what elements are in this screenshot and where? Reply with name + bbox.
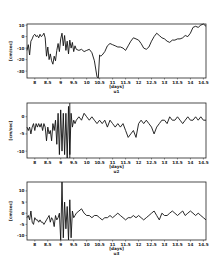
- x-tick-label: 10.5: [94, 80, 104, 85]
- x-tick-label: 9: [59, 80, 62, 85]
- x-tick-label: 10: [84, 160, 90, 165]
- x-tick-label: 8: [33, 80, 36, 85]
- y-tick-label: 0: [22, 114, 25, 119]
- y-tick-label: -30: [17, 69, 25, 74]
- data-line: [27, 182, 206, 240]
- x-tick-label: 14: [188, 80, 194, 85]
- y-tick-label: -5: [20, 222, 25, 227]
- x-tick-label: 13: [162, 80, 168, 85]
- x-tick-label: 10.5: [94, 242, 104, 247]
- x-tick-label: 10: [84, 242, 90, 247]
- x-tick-label: 9.5: [70, 160, 78, 165]
- x-tick-label: 10: [84, 80, 90, 85]
- x-tick-label: 12.5: [146, 80, 156, 85]
- plot-frame: [27, 24, 206, 78]
- panel-u3: 88.599.51010.51111.51212.51313.51414.510…: [8, 182, 209, 256]
- x-tick-label: 13.5: [172, 80, 182, 85]
- x-tick-label: 13.5: [172, 242, 182, 247]
- panel-title: u2: [114, 169, 120, 174]
- panel-u1: 88.599.51010.51111.51212.51313.51414.510…: [8, 23, 209, 94]
- plot-frame: [27, 182, 206, 240]
- figure: 88.599.51010.51111.51212.51313.51414.510…: [0, 0, 222, 266]
- x-tick-label: 12.5: [146, 242, 156, 247]
- x-tick-label: 9: [59, 160, 62, 165]
- x-tick-label: 13: [162, 160, 168, 165]
- x-tick-label: 14.5: [198, 160, 208, 165]
- y-tick-label: -10: [17, 149, 25, 154]
- x-tick-label: 13: [162, 242, 168, 247]
- panel-title: u1: [114, 89, 120, 94]
- x-tick-label: 12: [136, 242, 142, 247]
- panel-u2: 88.599.51010.51111.51212.51313.51414.50-…: [8, 103, 209, 174]
- y-tick-label: 5: [22, 200, 25, 205]
- y-tick-label: -20: [17, 57, 25, 62]
- x-tick-label: 9.5: [70, 80, 78, 85]
- panel-title: u3: [114, 251, 120, 256]
- x-tick-label: 8.5: [44, 242, 52, 247]
- x-tick-label: 14: [188, 242, 194, 247]
- x-tick-label: 8.5: [44, 80, 52, 85]
- y-axis-label: [cm/sec]: [8, 41, 13, 61]
- x-tick-label: 8: [33, 242, 36, 247]
- y-axis-label: [cm/sec]: [8, 120, 13, 140]
- x-tick-label: 12: [136, 80, 142, 85]
- x-tick-label: 10.5: [94, 160, 104, 165]
- x-tick-label: 9.5: [70, 242, 78, 247]
- x-tick-label: 14.5: [198, 242, 208, 247]
- x-tick-label: 12: [136, 160, 142, 165]
- data-line: [27, 106, 206, 158]
- x-tick-label: 12.5: [146, 160, 156, 165]
- x-tick-label: 8.5: [44, 160, 52, 165]
- y-tick-label: -5: [20, 131, 25, 136]
- data-line: [27, 24, 206, 78]
- x-tick-label: 14: [188, 160, 194, 165]
- y-axis-label: [cm/sec]: [8, 201, 13, 221]
- y-tick-label: 10: [19, 23, 25, 28]
- x-tick-label: 13.5: [172, 160, 182, 165]
- x-tick-label: 9: [59, 242, 62, 247]
- x-tick-label: 14.5: [198, 80, 208, 85]
- y-tick-label: 0: [22, 211, 25, 216]
- y-tick-label: -10: [17, 233, 25, 238]
- y-tick-label: 0: [22, 34, 25, 39]
- y-tick-label: -10: [17, 46, 25, 51]
- y-tick-label: 10: [19, 188, 25, 193]
- x-tick-label: 8: [33, 160, 36, 165]
